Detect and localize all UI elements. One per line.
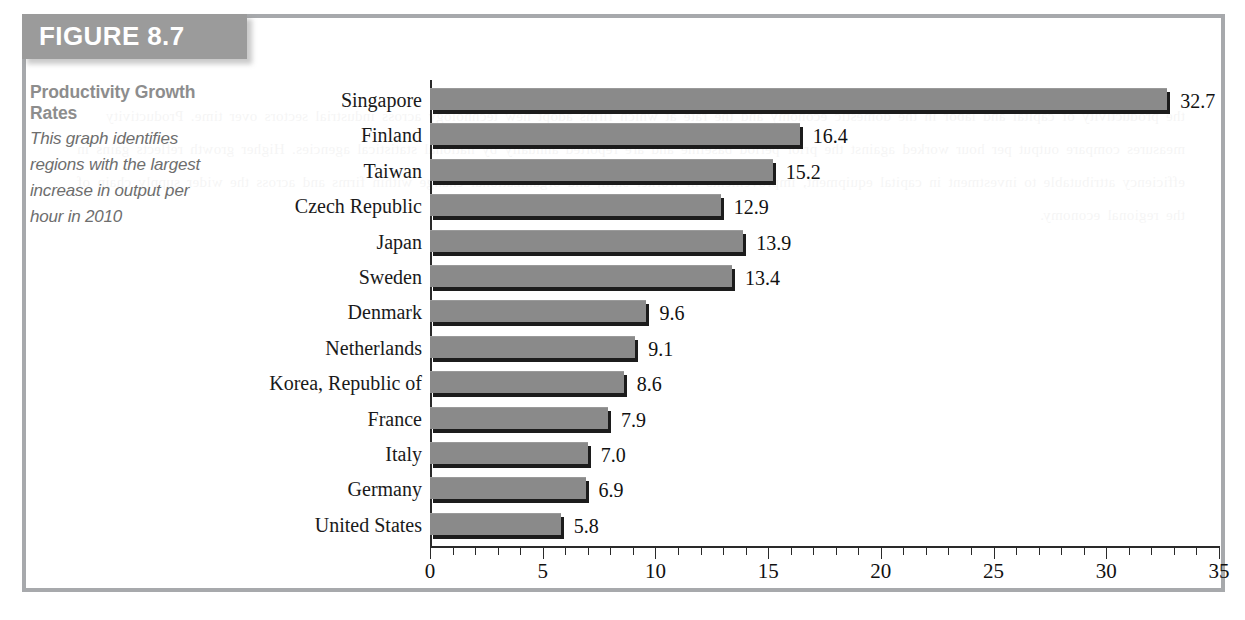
x-tick-major	[1106, 548, 1107, 559]
x-tick-minor	[903, 548, 904, 555]
figure-caption-title: Productivity Growth Rates	[30, 82, 215, 124]
category-label-text: Czech Republic	[295, 196, 422, 216]
bar-row[interactable]: 6.9	[430, 477, 592, 505]
category-label-text: Japan	[376, 232, 422, 252]
x-tick-minor	[926, 548, 927, 555]
bar-row[interactable]: 32.7	[430, 88, 1173, 116]
x-tick-major	[994, 548, 995, 559]
x-tick-minor	[520, 548, 521, 555]
x-tick-minor	[610, 548, 611, 555]
x-axis-line	[430, 546, 1220, 548]
bar-row[interactable]: 7.0	[430, 442, 594, 470]
x-tick-minor	[723, 548, 724, 555]
x-tick-label: 10	[645, 561, 666, 582]
x-tick-minor	[565, 548, 566, 555]
x-tick-minor	[1129, 548, 1130, 555]
category-label-text: Denmark	[348, 302, 422, 322]
bar-1[interactable]	[430, 88, 1167, 110]
x-tick-label: 20	[870, 561, 891, 582]
x-tick-major	[768, 548, 769, 559]
x-tick-minor	[746, 548, 747, 555]
category-label-text: Sweden	[359, 267, 422, 287]
bar-value-label: 6.9	[599, 480, 624, 500]
x-tick-minor	[1016, 548, 1017, 555]
x-tick-minor	[971, 548, 972, 555]
x-tick-minor	[498, 548, 499, 555]
x-tick-minor	[1084, 548, 1085, 555]
x-tick-minor	[475, 548, 476, 555]
bar-13[interactable]	[430, 513, 561, 535]
bar-8[interactable]	[430, 336, 635, 358]
bar-7[interactable]	[430, 300, 646, 322]
x-tick-label: 25	[983, 561, 1004, 582]
category-label-text: Germany	[348, 479, 422, 499]
bar-value-label: 13.9	[756, 233, 791, 253]
bar-value-label: 7.0	[601, 445, 626, 465]
bar-11[interactable]	[430, 442, 588, 464]
x-tick-label: 35	[1209, 561, 1230, 582]
bar-value-label: 32.7	[1180, 91, 1215, 111]
bar-value-label: 15.2	[786, 162, 821, 182]
bar-value-label: 5.8	[574, 516, 599, 536]
x-tick-label: 15	[758, 561, 779, 582]
bar-value-label: 12.9	[734, 197, 769, 217]
bar-5[interactable]	[430, 230, 743, 252]
figure-caption: Productivity Growth Rates This graph ide…	[30, 82, 215, 230]
x-tick-major	[543, 548, 544, 559]
x-tick-minor	[791, 548, 792, 555]
bar-value-label: 9.1	[648, 339, 673, 359]
x-tick-major	[430, 548, 431, 559]
x-tick-minor	[588, 548, 589, 555]
x-tick-minor	[633, 548, 634, 555]
x-tick-minor	[858, 548, 859, 555]
x-tick-minor	[1196, 548, 1197, 555]
bar-9[interactable]	[430, 371, 624, 393]
bar-6[interactable]	[430, 265, 732, 287]
bar-value-label: 13.4	[745, 268, 780, 288]
bar-value-label: 7.9	[621, 410, 646, 430]
bar-value-label: 16.4	[813, 126, 848, 146]
x-tick-minor	[1151, 548, 1152, 555]
bar-4[interactable]	[430, 194, 721, 216]
bar-row[interactable]: 9.1	[430, 336, 641, 364]
bar-3[interactable]	[430, 159, 773, 181]
bar-10[interactable]	[430, 407, 608, 429]
figure-caption-body: This graph identifies regions with the l…	[30, 126, 215, 230]
x-tick-minor	[948, 548, 949, 555]
bar-value-label: 8.6	[637, 374, 662, 394]
bar-row[interactable]: 5.8	[430, 513, 567, 541]
x-tick-label: 5	[537, 561, 548, 582]
bar-value-label: 9.6	[659, 303, 684, 323]
category-label-text: Finland	[361, 125, 422, 145]
bar-row[interactable]: 13.4	[430, 265, 738, 293]
x-tick-minor	[1061, 548, 1062, 555]
x-tick-major	[1219, 548, 1220, 559]
bar-row[interactable]: 16.4	[430, 123, 806, 151]
figure-number-label: FIGURE 8.7	[39, 21, 185, 52]
x-tick-minor	[813, 548, 814, 555]
bar-row[interactable]: 8.6	[430, 371, 630, 399]
x-tick-label: 30	[1096, 561, 1117, 582]
bar-2[interactable]	[430, 123, 800, 145]
bar-row[interactable]: 9.6	[430, 300, 652, 328]
x-tick-minor	[453, 548, 454, 555]
x-tick-minor	[836, 548, 837, 555]
x-tick-label: 0	[425, 561, 436, 582]
x-tick-major	[881, 548, 882, 559]
figure-number-banner: FIGURE 8.7	[22, 14, 247, 59]
category-label-text: France	[368, 409, 422, 429]
x-tick-minor	[1174, 548, 1175, 555]
category-label-text: Italy	[385, 444, 422, 464]
x-tick-minor	[701, 548, 702, 555]
x-tick-major	[655, 548, 656, 559]
bar-row[interactable]: 7.9	[430, 407, 614, 435]
category-label-text: Netherlands	[325, 338, 422, 358]
x-tick-minor	[1039, 548, 1040, 555]
category-label-text: Korea, Republic of	[269, 373, 422, 393]
bar-12[interactable]	[430, 477, 586, 499]
category-label-text: Singapore	[341, 90, 422, 110]
bar-row[interactable]: 12.9	[430, 194, 727, 222]
x-tick-minor	[678, 548, 679, 555]
bar-row[interactable]: 15.2	[430, 159, 779, 187]
bar-row[interactable]: 13.9	[430, 230, 749, 258]
